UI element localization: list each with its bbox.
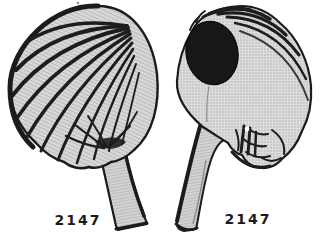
- item-number-right: 2147: [208, 211, 288, 227]
- print-speck: [77, 2, 80, 5]
- back-view-highlight-spot: [245, 127, 250, 132]
- catalog-illustration-page: 2147 2147: [0, 0, 325, 241]
- bag-front-view-figure: [10, 6, 158, 230]
- bag-back-view-figure: [176, 6, 311, 231]
- engraving-illustration: [0, 0, 325, 241]
- item-number-left: 2147: [38, 212, 118, 228]
